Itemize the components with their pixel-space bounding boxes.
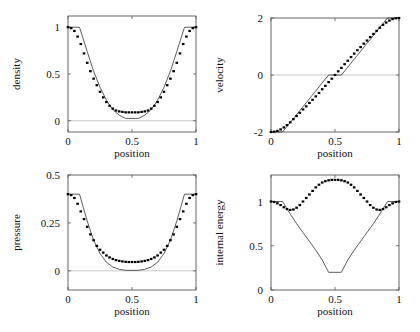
y-tick-label: 1 bbox=[55, 21, 61, 33]
y-tick-label: 0 bbox=[258, 69, 264, 81]
y-tick-label: 0 bbox=[55, 265, 61, 277]
x-tick-label: 0.5 bbox=[125, 135, 139, 147]
x-tick-label: 0 bbox=[65, 135, 71, 147]
y-tick-label: 0.5 bbox=[249, 240, 263, 252]
series-exact-line bbox=[68, 194, 196, 270]
x-tick-label: 0.5 bbox=[328, 293, 342, 305]
x-axis-label: position bbox=[317, 147, 353, 159]
series-exact-line bbox=[68, 27, 196, 118]
x-tick-label: 0 bbox=[268, 293, 274, 305]
y-axis-label: pressure bbox=[10, 214, 22, 251]
figure-2x2-profiles: 00.5100.51positiondensity00.51-202positi… bbox=[0, 0, 420, 332]
x-tick-label: 1 bbox=[193, 293, 199, 305]
panel-density: 00.5100.51positiondensity bbox=[10, 16, 199, 159]
x-axis-label: position bbox=[114, 147, 150, 159]
x-tick-label: 0 bbox=[268, 135, 274, 147]
series-numerical-dots bbox=[67, 193, 198, 263]
y-tick-label: 2 bbox=[258, 12, 264, 24]
y-tick-label: 0 bbox=[55, 115, 61, 127]
y-tick-label: 0.25 bbox=[41, 217, 61, 229]
y-tick-label: -2 bbox=[254, 126, 263, 138]
series-numerical-dots bbox=[270, 179, 401, 211]
panel-internal_energy: 00.5100.51positioninternal energy bbox=[213, 175, 402, 317]
panel-velocity: 00.51-202positionvelocity bbox=[213, 12, 402, 159]
x-tick-label: 0 bbox=[65, 293, 71, 305]
y-tick-label: 0.5 bbox=[46, 169, 60, 181]
y-axis-label: velocity bbox=[213, 57, 225, 93]
x-tick-label: 1 bbox=[396, 135, 402, 147]
panel-pressure: 00.5100.250.5positionpressure bbox=[10, 169, 199, 317]
x-tick-label: 1 bbox=[193, 135, 199, 147]
x-tick-label: 0.5 bbox=[328, 135, 342, 147]
y-tick-label: 0.5 bbox=[46, 68, 60, 80]
y-tick-label: 1 bbox=[258, 196, 264, 208]
x-tick-label: 0.5 bbox=[125, 293, 139, 305]
x-axis-label: position bbox=[317, 305, 353, 317]
y-tick-label: 0 bbox=[258, 284, 264, 296]
y-axis-label: internal energy bbox=[213, 199, 225, 266]
plot-frame bbox=[68, 16, 196, 132]
series-numerical-dots bbox=[67, 26, 198, 113]
plot-frame bbox=[68, 175, 196, 290]
series-exact-line bbox=[271, 202, 399, 273]
plot-frame bbox=[271, 175, 399, 290]
y-axis-label: density bbox=[10, 58, 22, 90]
x-axis-label: position bbox=[114, 305, 150, 317]
x-tick-label: 1 bbox=[396, 293, 402, 305]
